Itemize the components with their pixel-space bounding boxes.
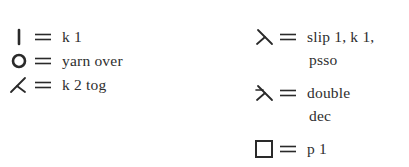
legend-entry-double-dec: double bbox=[253, 82, 350, 104]
legend-label: double bbox=[307, 84, 350, 102]
knitting-chart-legend: k 1 yarn over k 2 tog bbox=[0, 0, 409, 167]
left-slant-decrease-icon bbox=[253, 26, 275, 48]
circle-icon bbox=[8, 50, 30, 72]
legend-label-continuation: psso bbox=[309, 51, 337, 69]
vertical-bar-icon bbox=[8, 26, 30, 48]
equals-icon bbox=[32, 74, 54, 96]
right-slant-decrease-icon bbox=[8, 74, 30, 96]
legend-entry-slip1-k1-psso: slip 1, k 1, bbox=[253, 26, 374, 48]
equals-icon bbox=[277, 138, 299, 160]
equals-icon bbox=[277, 26, 299, 48]
square-icon bbox=[253, 138, 275, 160]
legend-entry-k2tog: k 2 tog bbox=[8, 74, 106, 96]
legend-label: p 1 bbox=[307, 140, 327, 158]
legend-entry-yarn-over: yarn over bbox=[8, 50, 123, 72]
legend-label-continuation: dec bbox=[309, 107, 331, 125]
legend-label: k 1 bbox=[62, 28, 82, 46]
legend-label: yarn over bbox=[62, 52, 123, 70]
legend-entry-p1: p 1 bbox=[253, 138, 327, 160]
equals-icon bbox=[277, 82, 299, 104]
equals-icon bbox=[32, 50, 54, 72]
equals-icon bbox=[32, 26, 54, 48]
legend-entry-k1: k 1 bbox=[8, 26, 82, 48]
legend-label: k 2 tog bbox=[62, 76, 106, 94]
double-decrease-icon bbox=[253, 82, 275, 104]
legend-label: slip 1, k 1, bbox=[307, 28, 374, 46]
